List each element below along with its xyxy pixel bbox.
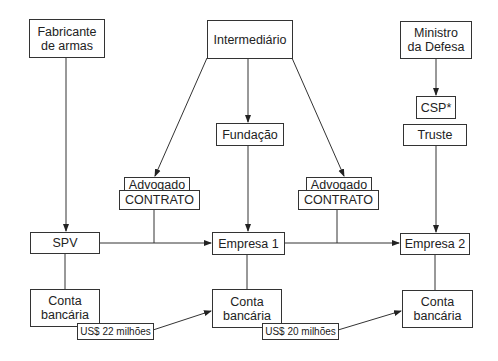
node-label: bancária: [41, 308, 89, 322]
node-spv: SPV: [30, 232, 100, 254]
node-truste: Truste: [403, 124, 467, 146]
node-ministro-da-defesa: Ministroda Defesa: [400, 21, 472, 59]
node-label: Empresa 1: [218, 237, 278, 251]
node-label: Fabricante: [37, 25, 96, 39]
transfer-label-20-milhoes: US$ 20 milhões: [262, 323, 339, 340]
node-label: bancária: [223, 309, 271, 323]
transfer-amount: US$ 22 milhões: [80, 325, 151, 339]
node-conta-bancaria-spv: Contabancária: [30, 289, 100, 327]
node-empresa-2: Empresa 2: [400, 233, 470, 255]
node-label: da Defesa: [408, 40, 465, 54]
transfer-amount: US$ 20 milhões: [265, 325, 336, 339]
node-contrato-left: CONTRATO: [119, 190, 200, 210]
node-label: de armas: [37, 39, 96, 53]
transfer-label-22-milhoes: US$ 22 milhões: [77, 323, 154, 340]
node-label: Empresa 2: [405, 237, 465, 251]
node-csp: CSP*: [416, 96, 456, 119]
node-label: Ministro: [408, 26, 465, 40]
node-empresa-1: Empresa 1: [212, 232, 285, 255]
node-label: Conta: [414, 295, 462, 309]
node-label: Truste: [418, 128, 453, 142]
node-conta-bancaria-empresa-2: Contabancária: [402, 290, 473, 328]
node-label: CONTRATO: [125, 193, 194, 207]
node-label: bancária: [414, 309, 462, 323]
node-label: CONTRATO: [304, 193, 373, 207]
node-label: Fundação: [222, 128, 278, 142]
node-intermediario: Intermediário: [207, 20, 293, 59]
node-label: Conta: [223, 295, 271, 309]
node-label: SPV: [52, 236, 77, 250]
node-fabricante-de-armas: Fabricantede armas: [29, 19, 105, 58]
node-label: Intermediário: [214, 33, 287, 47]
node-fundacao: Fundação: [216, 123, 284, 146]
node-contrato-right: CONTRATO: [298, 190, 379, 210]
node-label: Conta: [41, 294, 89, 308]
node-label: CSP*: [421, 101, 452, 115]
